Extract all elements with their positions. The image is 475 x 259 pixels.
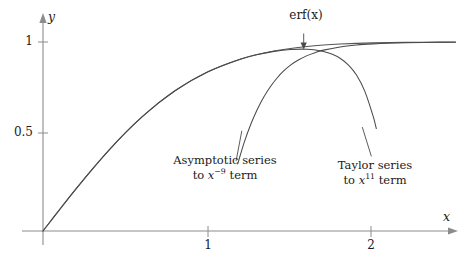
data-curves-group bbox=[43, 42, 456, 231]
y-tick-label-1: 1 bbox=[2, 34, 33, 49]
erf-curve-label: erf(x) bbox=[278, 8, 334, 23]
taylor-line2-suffix: term bbox=[375, 173, 407, 187]
curve-taylor-series bbox=[43, 49, 376, 231]
asymptotic-annotation-line1: Asymptotic series bbox=[173, 153, 277, 167]
asymptotic-annotation-line2: to x−9 term bbox=[150, 167, 300, 182]
annotation-leaders-group bbox=[236, 33, 371, 161]
taylor-line2-exponent: 11 bbox=[365, 172, 375, 181]
asymptotic-line2-prefix: to bbox=[193, 168, 208, 182]
taylor-series-annotation: Taylor series to x11 term bbox=[312, 158, 438, 188]
y-tick-label-0point5: 0.5 bbox=[2, 125, 33, 140]
x-axis-label: x bbox=[443, 209, 450, 225]
taylor-annotation-line1: Taylor series bbox=[338, 158, 412, 172]
taylor-line2-prefix: to bbox=[343, 173, 358, 187]
plot-canvas bbox=[0, 0, 475, 259]
taylor-leader-line bbox=[362, 127, 371, 156]
erf-approximations-figure: 1 0.5 1 2 y x erf(x) Asymptotic series t… bbox=[0, 0, 475, 259]
y-axis-arrowhead bbox=[39, 13, 46, 23]
y-axis-label: y bbox=[48, 9, 55, 25]
asymptotic-series-annotation: Asymptotic series to x−9 term bbox=[150, 153, 300, 183]
axes-group bbox=[22, 13, 458, 245]
curve-erf bbox=[43, 42, 456, 231]
x-axis-arrowhead bbox=[448, 227, 458, 234]
asymptotic-line2-suffix: term bbox=[226, 168, 258, 182]
tick-marks-group bbox=[38, 42, 371, 237]
asymptotic-line2-exponent: −9 bbox=[214, 167, 226, 176]
curve-asymptotic-series bbox=[238, 42, 456, 164]
erf-label-text: erf(x) bbox=[289, 8, 322, 22]
taylor-annotation-line2: to x11 term bbox=[312, 172, 438, 187]
x-tick-label-2: 2 bbox=[357, 238, 385, 253]
x-tick-label-1: 1 bbox=[194, 238, 222, 253]
